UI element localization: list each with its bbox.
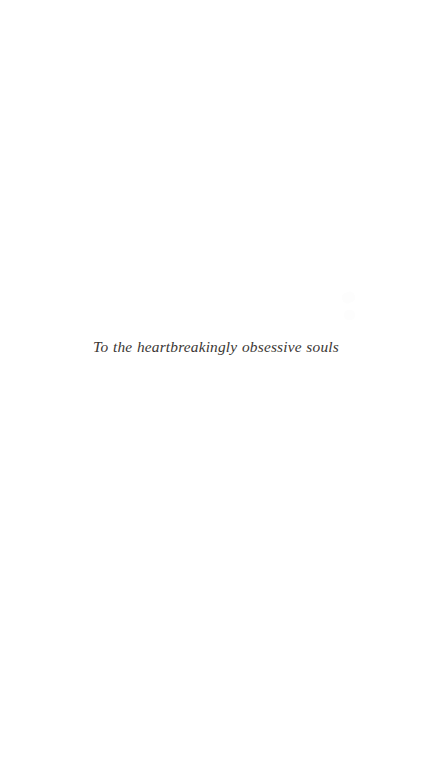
scan-speckle-icon xyxy=(343,309,356,321)
book-page: To the heartbreakingly obsessive souls xyxy=(0,0,432,768)
dedication-block: To the heartbreakingly obsessive souls xyxy=(0,336,432,358)
dedication-text: To the heartbreakingly obsessive souls xyxy=(93,336,339,358)
scan-speckle-icon xyxy=(341,290,357,304)
